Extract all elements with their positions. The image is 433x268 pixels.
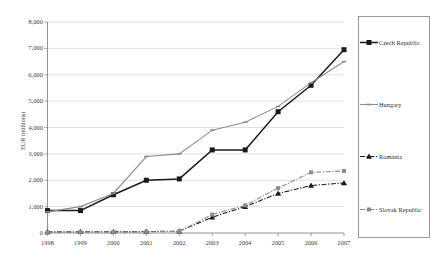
series-slovak-republic <box>46 169 347 234</box>
data-point-marker <box>367 40 372 45</box>
data-point-marker <box>309 170 313 174</box>
data-point-marker <box>144 230 148 234</box>
data-series <box>45 47 348 234</box>
legend-swatch-triangle-filled-icon <box>360 152 378 161</box>
data-point-marker <box>276 186 280 190</box>
axis-lines <box>45 22 345 236</box>
data-point-marker <box>78 208 83 213</box>
data-point-marker <box>243 147 248 152</box>
legend-item-hungary[interactable]: Hungary <box>360 100 401 109</box>
legend-label: Romania <box>379 153 402 160</box>
data-point-marker <box>111 230 115 234</box>
legend-label: Czech Republic <box>379 39 420 46</box>
data-point-marker <box>342 47 347 52</box>
data-point-marker <box>177 176 182 181</box>
legend-swatch-small-dash-icon <box>360 100 378 109</box>
data-point-marker <box>78 230 82 234</box>
data-point-marker <box>210 213 214 217</box>
series-line <box>48 62 345 212</box>
data-point-marker <box>46 230 50 234</box>
legend-label: Slovak Republic <box>379 206 422 213</box>
legend-item-romania[interactable]: Romania <box>360 152 402 161</box>
legend-swatch-square-small-icon <box>360 205 378 214</box>
series-romania <box>45 180 348 234</box>
data-point-marker <box>144 178 149 183</box>
data-point-marker <box>210 147 215 152</box>
legend-item-slovak-republic[interactable]: Slovak Republic <box>360 205 422 214</box>
legend-item-czech-republic[interactable]: Czech Republic <box>360 38 420 47</box>
legend-label: Hungary <box>379 101 401 108</box>
series-line <box>48 183 345 232</box>
series-hungary <box>45 62 346 212</box>
data-point-marker <box>276 109 281 114</box>
gridlines <box>48 22 345 207</box>
data-point-marker <box>243 203 247 207</box>
data-point-marker <box>342 169 346 173</box>
data-point-marker <box>367 208 371 212</box>
data-point-marker <box>177 229 181 233</box>
line-chart: EUR (millions) 01,0002,0003,0004,0005,00… <box>0 0 433 268</box>
series-line <box>48 50 345 211</box>
legend-swatch-square-filled-icon <box>360 38 378 47</box>
